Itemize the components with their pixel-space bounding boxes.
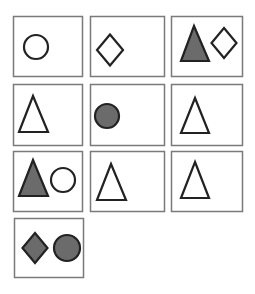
filled-circle-icon bbox=[95, 104, 119, 128]
outline-circle-icon bbox=[24, 35, 48, 59]
filled-circle-icon bbox=[54, 235, 80, 261]
panel-8 bbox=[91, 152, 165, 212]
panel-2 bbox=[91, 17, 165, 77]
panel-frame bbox=[14, 85, 83, 146]
panel-1 bbox=[14, 17, 83, 77]
panel-6 bbox=[172, 85, 243, 146]
panel-frame bbox=[172, 85, 243, 146]
panels-grid bbox=[14, 17, 243, 278]
panel-3 bbox=[172, 17, 243, 77]
outline-circle-icon bbox=[51, 168, 75, 192]
panel-7 bbox=[14, 152, 83, 212]
panel-4 bbox=[14, 85, 83, 146]
panel-9 bbox=[172, 152, 243, 212]
panel-frame bbox=[172, 152, 243, 212]
panel-10 bbox=[15, 219, 84, 278]
panel-frame bbox=[91, 152, 165, 212]
shape-puzzle-diagram bbox=[0, 0, 255, 294]
panel-5 bbox=[91, 85, 165, 146]
